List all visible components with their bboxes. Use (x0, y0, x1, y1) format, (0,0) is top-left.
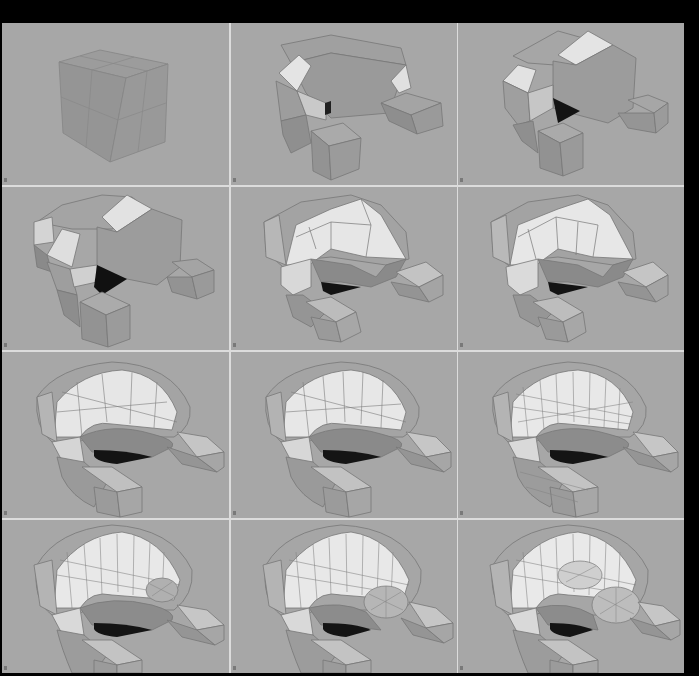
axis-indicator (4, 178, 7, 182)
viewport-grid (2, 23, 684, 673)
axis-indicator (460, 511, 463, 515)
viewport-panel-12[interactable] (458, 520, 684, 673)
stage-9-model-icon (458, 352, 684, 518)
stage-12-model-icon (458, 520, 684, 673)
axis-indicator (233, 511, 236, 515)
viewport-panel-4[interactable] (2, 187, 229, 350)
axis-indicator (233, 666, 236, 670)
cube-model-icon (2, 23, 229, 185)
stage-8-model-icon (231, 352, 457, 518)
viewport-panel-11[interactable] (231, 520, 457, 673)
stage-10-model-icon (2, 520, 229, 673)
axis-indicator (233, 343, 236, 347)
stage-3-model-icon (458, 23, 684, 185)
viewport-panel-10[interactable] (2, 520, 229, 673)
axis-indicator (460, 343, 463, 347)
right-frame (684, 0, 699, 676)
axis-indicator (4, 343, 7, 347)
viewport-panel-1[interactable] (2, 23, 229, 185)
viewport-panel-2[interactable] (231, 23, 457, 185)
stage-6-model-icon (458, 187, 684, 350)
viewport-panel-8[interactable] (231, 352, 457, 518)
viewport-panel-6[interactable] (458, 187, 684, 350)
stage-4-model-icon (2, 187, 229, 350)
viewport-panel-9[interactable] (458, 352, 684, 518)
stage-7-model-icon (2, 352, 229, 518)
top-frame (0, 0, 699, 23)
viewport-panel-7[interactable] (2, 352, 229, 518)
stage-5-model-icon (231, 187, 457, 350)
axis-indicator (460, 178, 463, 182)
axis-indicator (233, 178, 236, 182)
axis-indicator (460, 666, 463, 670)
stage-2-model-icon (231, 23, 457, 185)
viewport-panel-3[interactable] (458, 23, 684, 185)
stage-11-model-icon (231, 520, 457, 673)
axis-indicator (4, 511, 7, 515)
viewport-panel-5[interactable] (231, 187, 457, 350)
axis-indicator (4, 666, 7, 670)
